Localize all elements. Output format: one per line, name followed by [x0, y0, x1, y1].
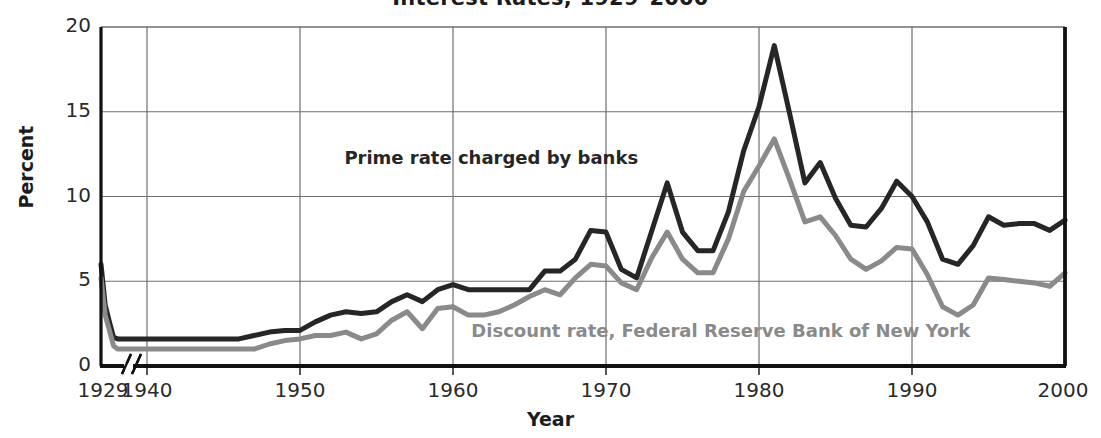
x-tick-label: 1980: [719, 378, 799, 402]
x-tick-label: 1990: [872, 378, 952, 402]
y-tick-label: 5: [45, 267, 91, 291]
x-tick-label: 1960: [413, 378, 493, 402]
series-label-discount-rate: Discount rate, Federal Reserve Bank of N…: [471, 320, 970, 341]
series-label-prime-rate: Prime rate charged by banks: [344, 147, 638, 168]
x-axis-title: Year: [0, 408, 1101, 430]
y-tick-label: 0: [45, 352, 91, 376]
chart-title: Interest Rates, 1929–2000: [0, 0, 1101, 10]
interest-rates-chart: Interest Rates, 1929–2000 Percent Year 0…: [0, 0, 1101, 438]
x-tick-label: 2000: [1023, 378, 1101, 402]
plot-area: [0, 0, 1101, 438]
y-tick-label: 20: [45, 13, 91, 37]
y-tick-label: 15: [45, 98, 91, 122]
x-tick-label: 1940: [107, 378, 187, 402]
y-tick-label: 10: [45, 183, 91, 207]
y-axis-title: Percent: [15, 117, 37, 217]
x-tick-label: 1950: [260, 378, 340, 402]
x-tick-label: 1970: [566, 378, 646, 402]
series-line-prime-rate: [101, 46, 1065, 339]
